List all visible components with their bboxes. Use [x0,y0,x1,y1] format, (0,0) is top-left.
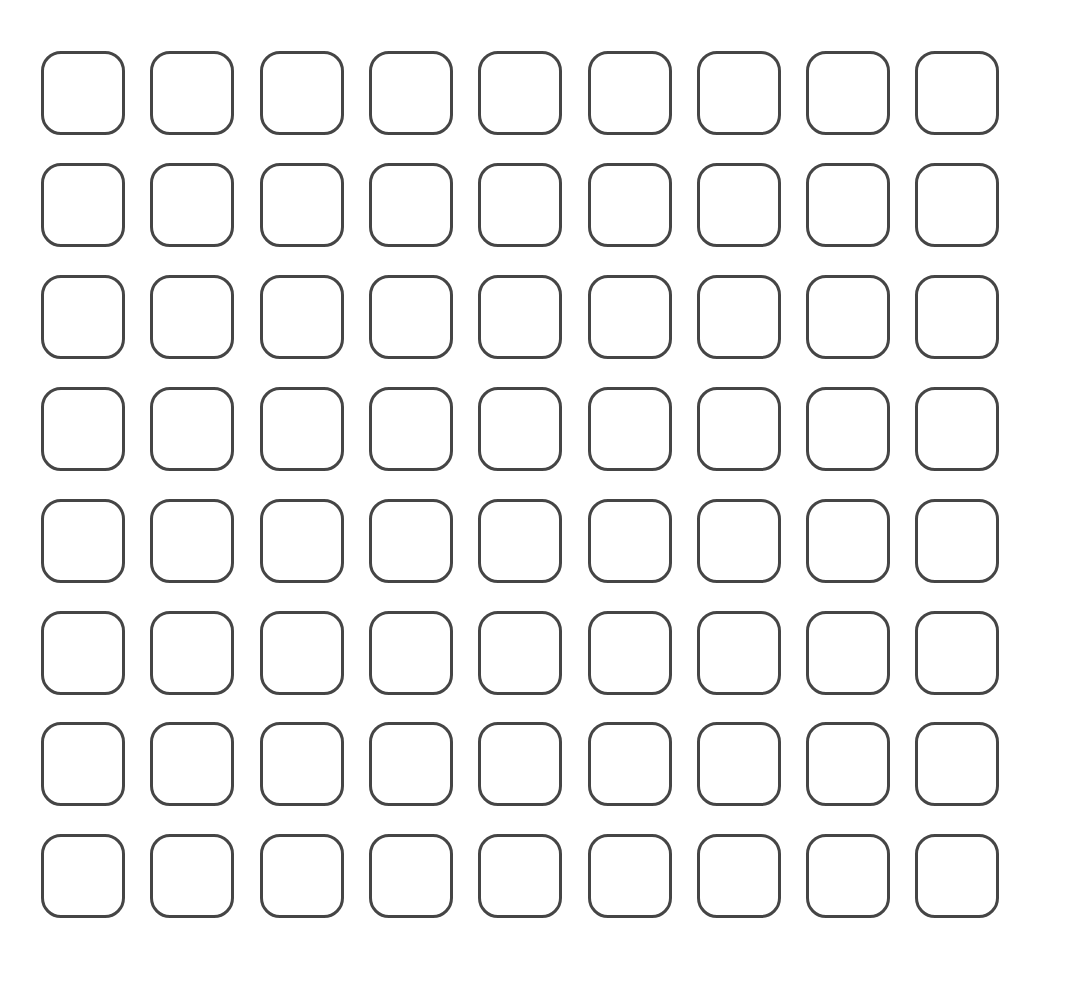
rounded-square-cell [41,51,125,135]
rounded-square-cell [260,499,344,583]
rounded-square-cell [806,834,890,918]
rounded-square-cell [260,722,344,806]
rounded-square-cell [369,722,453,806]
rounded-square-cell [478,499,562,583]
rounded-square-cell [588,611,672,695]
rounded-square-cell [369,387,453,471]
rounded-square-cell [697,163,781,247]
rounded-square-cell [697,611,781,695]
rounded-square-cell [915,722,999,806]
rounded-square-cell [41,499,125,583]
rounded-square-cell [41,722,125,806]
rounded-square-cell [478,51,562,135]
rounded-square-cell [260,51,344,135]
rounded-square-cell [369,499,453,583]
rounded-square-cell [697,834,781,918]
rounded-square-cell [369,51,453,135]
rounded-square-cell [41,387,125,471]
rounded-square-cell [260,611,344,695]
rounded-square-cell [915,163,999,247]
rounded-square-cell [588,163,672,247]
rounded-square-cell [588,499,672,583]
rounded-square-cell [915,387,999,471]
rounded-square-grid [0,0,1066,982]
rounded-square-cell [150,499,234,583]
rounded-square-cell [41,834,125,918]
rounded-square-cell [806,163,890,247]
rounded-square-cell [806,611,890,695]
rounded-square-cell [915,275,999,359]
rounded-square-cell [150,51,234,135]
rounded-square-cell [41,275,125,359]
rounded-square-cell [150,387,234,471]
rounded-square-cell [697,499,781,583]
rounded-square-cell [150,834,234,918]
rounded-square-cell [588,834,672,918]
rounded-square-cell [478,387,562,471]
rounded-square-cell [697,387,781,471]
rounded-square-cell [697,275,781,359]
rounded-square-cell [806,387,890,471]
rounded-square-cell [260,834,344,918]
rounded-square-cell [150,275,234,359]
rounded-square-cell [588,722,672,806]
rounded-square-cell [806,722,890,806]
rounded-square-cell [588,387,672,471]
rounded-square-cell [478,722,562,806]
rounded-square-cell [41,163,125,247]
rounded-square-cell [369,163,453,247]
rounded-square-cell [806,499,890,583]
rounded-square-cell [478,275,562,359]
rounded-square-cell [478,611,562,695]
rounded-square-cell [369,834,453,918]
rounded-square-cell [915,611,999,695]
rounded-square-cell [915,499,999,583]
rounded-square-cell [588,51,672,135]
rounded-square-cell [915,51,999,135]
rounded-square-cell [806,275,890,359]
rounded-square-cell [150,722,234,806]
rounded-square-cell [478,163,562,247]
rounded-square-cell [915,834,999,918]
rounded-square-cell [41,611,125,695]
rounded-square-cell [260,275,344,359]
rounded-square-cell [697,51,781,135]
rounded-square-cell [588,275,672,359]
rounded-square-cell [369,611,453,695]
rounded-square-cell [806,51,890,135]
rounded-square-cell [260,163,344,247]
rounded-square-cell [478,834,562,918]
rounded-square-cell [260,387,344,471]
rounded-square-cell [369,275,453,359]
rounded-square-cell [150,611,234,695]
rounded-square-cell [697,722,781,806]
rounded-square-cell [150,163,234,247]
